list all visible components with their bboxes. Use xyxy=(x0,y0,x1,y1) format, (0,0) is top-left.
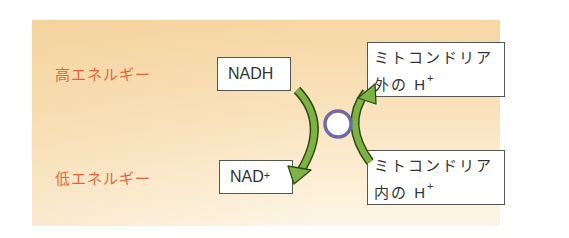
right-curved-arrow-icon xyxy=(355,84,376,162)
coupling-diagram xyxy=(0,0,569,238)
left-curved-arrow-icon xyxy=(288,90,314,184)
coupling-circle-icon xyxy=(325,111,351,137)
